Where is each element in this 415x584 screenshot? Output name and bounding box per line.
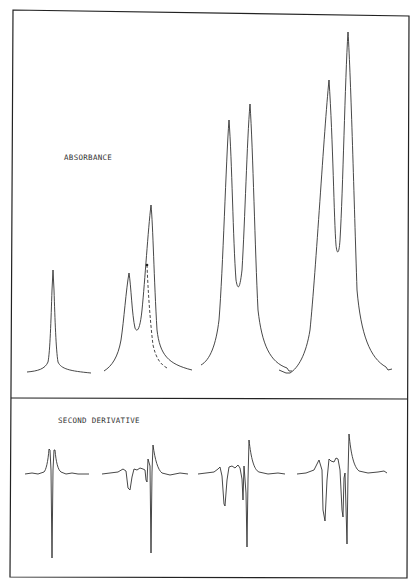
- second-derivative-label: SECOND DERIVATIVE: [58, 416, 140, 425]
- absorbance-traces: [27, 32, 392, 373]
- panel-divider: [11, 398, 408, 399]
- derivative-trace-2: [102, 445, 188, 553]
- absorbance-label: ABSORBANCE: [64, 153, 112, 162]
- crossover-marker: [146, 264, 149, 267]
- derivative-trace-1: [25, 449, 89, 558]
- absorbance-trace-2: [104, 205, 192, 371]
- derivative-trace-4: [297, 434, 387, 544]
- derivative-trace-3: [198, 440, 285, 547]
- absorbance-trace-4: [279, 32, 392, 373]
- spectra-plot: [0, 0, 415, 584]
- second-derivative-traces: [25, 434, 387, 558]
- spectra-figure: ABSORBANCE SECOND DERIVATIVE: [0, 0, 415, 584]
- absorbance-trace-1: [27, 270, 91, 373]
- absorbance-trace-3: [201, 104, 292, 371]
- absorbance-trace-2-dashed: [147, 265, 167, 368]
- figure-border: [10, 10, 409, 578]
